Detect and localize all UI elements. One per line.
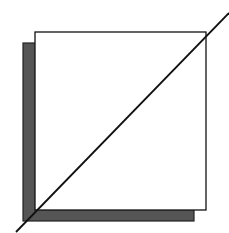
white-square (35, 32, 206, 210)
diagram-canvas (0, 0, 229, 233)
